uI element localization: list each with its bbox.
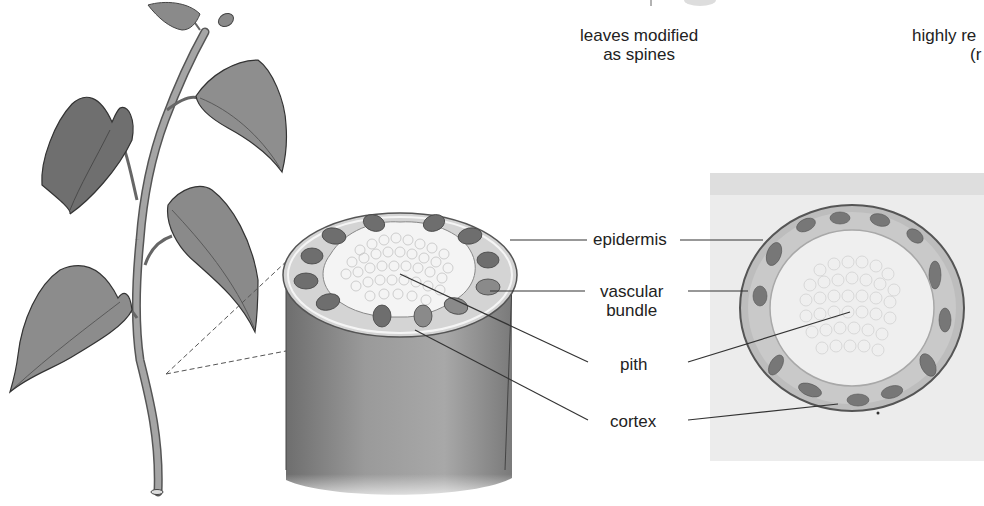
- label-cortex: cortex: [610, 412, 656, 431]
- label-line-1: vascular: [600, 282, 663, 301]
- micrograph-photo: [710, 173, 984, 461]
- label-pith: pith: [620, 355, 647, 374]
- label-vascular-bundle: vascular bundle: [600, 282, 663, 320]
- diagram-canvas: [0, 0, 984, 506]
- stem-cross-section-illustration: [280, 212, 520, 506]
- plant-illustration: [10, 2, 286, 494]
- label-epidermis: epidermis: [593, 230, 667, 249]
- label-line-2: bundle: [600, 301, 663, 320]
